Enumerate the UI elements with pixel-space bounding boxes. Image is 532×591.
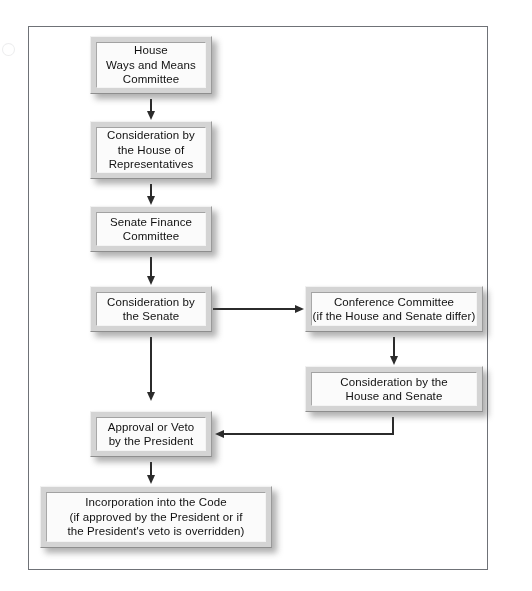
node-senate-finance-committee-label: Senate Finance Committee (110, 215, 192, 244)
node-consideration-house-of-representatives-body: Consideration by the House of Representa… (96, 127, 206, 173)
node-consideration-house-of-representatives[interactable]: Consideration by the House of Representa… (90, 121, 212, 179)
node-approval-or-veto-by-the-president-label: Approval or Veto by the President (108, 420, 195, 449)
node-house-ways-and-means-committee-body: House Ways and Means Committee (96, 42, 206, 88)
arrowhead-conference-to-house-senate (390, 356, 398, 365)
arrowhead-house-senate-to-approval (215, 430, 224, 438)
arrowhead-house-to-senate-finance (147, 196, 155, 205)
connector-senate-to-approval (150, 337, 152, 393)
arrowhead-senate-to-conference (295, 305, 304, 313)
node-approval-or-veto-by-the-president-body: Approval or Veto by the President (96, 417, 206, 451)
connector-conference-to-house-senate (393, 337, 395, 357)
flowchart-canvas: House Ways and Means Committee Considera… (0, 0, 532, 591)
connector-house-senate-elbow-vertical (392, 417, 394, 434)
node-senate-finance-committee-body: Senate Finance Committee (96, 212, 206, 246)
node-consideration-house-and-senate-label: Consideration by the House and Senate (340, 375, 447, 404)
node-incorporation-into-the-code-label: Incorporation into the Code (if approved… (67, 495, 244, 539)
node-incorporation-into-the-code-body: Incorporation into the Code (if approved… (46, 492, 266, 542)
node-conference-committee-label: Conference Committee (if the House and S… (313, 295, 476, 324)
scan-artifact-mark (3, 44, 14, 55)
connector-approval-to-incorporation (150, 462, 152, 476)
connector-senate-finance-to-senate (150, 257, 152, 277)
arrowhead-senate-finance-to-senate (147, 276, 155, 285)
node-consideration-by-the-senate[interactable]: Consideration by the Senate (90, 286, 212, 332)
node-consideration-house-and-senate[interactable]: Consideration by the House and Senate (305, 366, 483, 412)
node-approval-or-veto-by-the-president[interactable]: Approval or Veto by the President (90, 411, 212, 457)
node-conference-committee-body: Conference Committee (if the House and S… (311, 292, 477, 326)
node-consideration-by-the-senate-body: Consideration by the Senate (96, 292, 206, 326)
connector-senate-to-conference (213, 308, 296, 310)
node-consideration-house-and-senate-body: Consideration by the House and Senate (311, 372, 477, 406)
connector-house-senate-elbow-horizontal (224, 433, 394, 435)
arrowhead-senate-to-approval (147, 392, 155, 401)
node-consideration-house-of-representatives-label: Consideration by the House of Representa… (107, 128, 195, 172)
node-incorporation-into-the-code[interactable]: Incorporation into the Code (if approved… (40, 486, 272, 548)
node-conference-committee[interactable]: Conference Committee (if the House and S… (305, 286, 483, 332)
node-consideration-by-the-senate-label: Consideration by the Senate (107, 295, 195, 324)
node-house-ways-and-means-committee[interactable]: House Ways and Means Committee (90, 36, 212, 94)
node-senate-finance-committee[interactable]: Senate Finance Committee (90, 206, 212, 252)
arrowhead-approval-to-incorporation (147, 475, 155, 484)
arrowhead-ways-means-to-house (147, 111, 155, 120)
node-house-ways-and-means-committee-label: House Ways and Means Committee (106, 43, 196, 87)
